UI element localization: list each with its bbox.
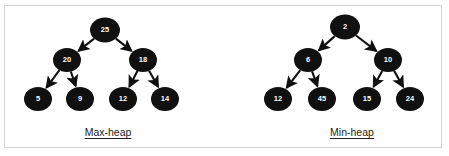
- tree-node-mx-root: [90, 18, 120, 43]
- heap-diagram-screenshot: 252018591214261012451524 Max-heapMin-hea…: [0, 0, 449, 156]
- tree-node-mx-n18: [129, 48, 157, 72]
- tree-node-mx-n20: [53, 48, 81, 72]
- tree-edge-mx-root-to-mx-n20: [78, 39, 94, 51]
- tree-node-mn-root: [330, 15, 360, 40]
- tree-edge-mn-n6-to-mn-n45: [312, 71, 317, 86]
- tree-edge-mx-n18-to-mx-n14: [149, 71, 158, 87]
- caption-max-heap: Max-heap: [85, 126, 132, 138]
- tree-edge-mx-n20-to-mx-n5: [46, 70, 59, 88]
- tree-node-mn-n6: [294, 48, 322, 72]
- tree-edge-mn-root-to-mn-n10: [356, 35, 376, 51]
- tree-node-mx-n9: [66, 87, 94, 111]
- tree-edge-mn-root-to-mn-n6: [319, 36, 335, 50]
- node-layer: [24, 15, 424, 112]
- tree-edge-mx-root-to-mx-n18: [116, 39, 132, 51]
- tree-edge-mx-n18-to-mx-n12: [129, 71, 137, 87]
- edge-layer: [46, 35, 403, 87]
- tree-edge-mn-n10-to-mn-n24: [394, 71, 403, 87]
- tree-node-mx-n5: [24, 87, 52, 111]
- tree-node-mn-n45: [308, 87, 336, 111]
- tree-node-mn-n10: [374, 48, 402, 72]
- tree-node-mn-n12: [264, 87, 292, 111]
- heap-trees-svg: [0, 0, 449, 156]
- tree-edge-mx-n20-to-mx-n9: [71, 72, 76, 87]
- tree-node-mn-n15: [353, 87, 381, 111]
- tree-node-mn-n24: [396, 87, 424, 111]
- tree-edge-mn-n10-to-mn-n15: [374, 71, 383, 87]
- tree-node-mx-n12: [109, 87, 137, 111]
- caption-min-heap: Min-heap: [330, 126, 374, 138]
- tree-edge-mn-n6-to-mn-n12: [287, 70, 301, 88]
- tree-node-mx-n14: [151, 87, 179, 111]
